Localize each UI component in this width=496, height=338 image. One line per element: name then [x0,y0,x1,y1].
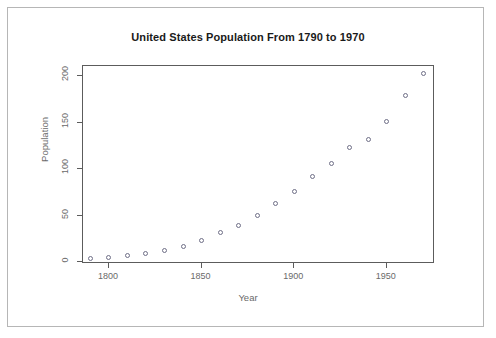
data-point [347,145,352,150]
x-axis-tick-label: 1850 [176,271,226,281]
data-point [421,71,426,76]
chart-title: United States Population From 1790 to 19… [0,31,496,43]
data-point [106,255,111,260]
data-point [255,213,260,218]
y-axis-tick-label: 0 [60,253,70,267]
data-point [384,119,389,124]
data-point [329,161,334,166]
plot-area [82,65,434,263]
data-point [236,223,241,228]
y-axis-tick-label: 100 [60,160,70,174]
y-axis-label: Population [39,110,50,170]
y-axis-tick-label: 150 [60,114,70,128]
data-point [366,137,371,142]
data-point [181,244,186,249]
data-point [273,201,278,206]
x-axis-tick-label: 1800 [83,271,133,281]
y-axis-tick [77,215,82,216]
screenshot-root: United States Population From 1790 to 19… [0,0,496,338]
y-axis-tick [77,168,82,169]
scatter-series [83,66,433,262]
data-point [143,251,148,256]
y-axis-tick-label: 50 [60,207,70,221]
y-axis-tick [77,75,82,76]
data-point [292,189,297,194]
data-point [218,230,223,235]
x-axis-tick [108,263,109,268]
y-axis-tick [77,261,82,262]
x-axis-tick [386,263,387,268]
x-axis-tick-label: 1950 [361,271,411,281]
data-point [310,174,315,179]
x-axis-tick-label: 1900 [268,271,318,281]
x-axis-tick [293,263,294,268]
data-point [403,93,408,98]
y-axis-tick [77,122,82,123]
data-point [125,253,130,258]
data-point [199,238,204,243]
y-axis-tick-label: 200 [60,67,70,81]
x-axis-tick [201,263,202,268]
x-axis-label: Year [0,292,496,303]
data-point [162,248,167,253]
data-point [88,256,93,261]
